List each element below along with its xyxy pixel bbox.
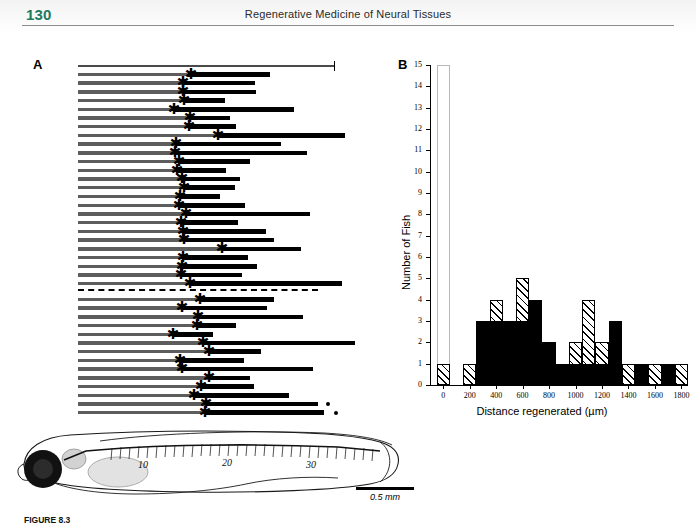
panel-a-bar-rows: ✱✱✱✱✱✱✱✱✱✱✱✱✱✱✱✱✱✱✱✱✱✱✱✱✱✱✱✱✱✱✱✱✱✱✱✱✱✱✱: [30, 55, 385, 415]
regenerated-black-segment: [183, 255, 248, 260]
proximal-grey-segment: [78, 376, 209, 379]
regenerated-black-segment: [182, 81, 255, 86]
figure-caption: FIGURE 8.3: [24, 515, 664, 523]
histogram-bar-solid: [556, 364, 569, 385]
regenerated-black-segment: [201, 384, 254, 389]
regenerated-black-segment: [182, 264, 257, 269]
proximal-grey-segment: [78, 73, 188, 76]
proximal-grey-segment: [78, 238, 184, 241]
lesion-asterisk-marker: ✱: [199, 405, 212, 420]
histogram-bar-hatched: [648, 364, 661, 385]
histogram-plot-area: 0123456789101112131415020040060080010001…: [392, 55, 692, 420]
x-axis-tick: [443, 385, 444, 389]
regenerated-black-segment: [222, 247, 301, 252]
histogram-bar-solid: [569, 364, 582, 385]
y-axis-tick-label: 14: [406, 81, 422, 90]
histogram-bar-solid: [529, 300, 542, 385]
y-axis-label: Number of Fish: [400, 215, 412, 290]
histogram-bar-solid: [662, 364, 675, 385]
y-axis-tick: [426, 236, 430, 237]
regenerated-black-segment: [203, 341, 355, 346]
x-axis-tick: [523, 385, 524, 389]
proximal-grey-segment: [78, 315, 198, 318]
proximal-grey-segment: [78, 411, 205, 414]
histogram-bar-hatched: [463, 364, 476, 385]
x-axis-tick: [655, 385, 656, 389]
y-axis-tick-label: 3: [406, 316, 422, 325]
proximal-grey-segment: [78, 81, 182, 84]
proximal-grey-segment: [78, 151, 175, 154]
y-axis-tick: [426, 278, 430, 279]
proximal-grey-segment: [78, 221, 181, 224]
proximal-grey-segment: [78, 108, 174, 111]
regenerated-black-segment: [205, 410, 324, 415]
x-axis-label: Distance regenerated (µm): [392, 405, 692, 417]
scale-bar: 0.5 mm: [345, 487, 425, 502]
x-axis-tick-label: 1800: [666, 391, 696, 400]
scale-bar-line: [356, 487, 414, 490]
proximal-grey-segment: [78, 142, 176, 145]
y-axis-tick: [426, 108, 430, 109]
regenerated-black-segment: [175, 151, 307, 156]
y-axis-tick-label: 15: [406, 60, 422, 69]
y-axis-tick: [426, 300, 430, 301]
histogram-bar-hatched: [675, 364, 688, 385]
somite-label-20: 20: [222, 457, 232, 468]
y-axis-tick: [426, 172, 430, 173]
y-axis-tick-label: 1: [406, 359, 422, 368]
proximal-grey-segment: [78, 195, 180, 198]
histogram-bar-solid: [542, 342, 555, 385]
proximal-grey-segment: [78, 333, 173, 336]
x-axis-tick: [576, 385, 577, 389]
proximal-grey-segment: [78, 282, 191, 285]
proximal-grey-segment: [78, 385, 201, 388]
histogram-bar-solid: [516, 321, 529, 385]
y-axis-tick: [426, 214, 430, 215]
scale-bar-label: 0.5 mm: [345, 492, 425, 502]
proximal-grey-segment: [78, 230, 183, 233]
proximal-grey-segment: [78, 212, 186, 215]
y-axis-tick: [426, 65, 430, 66]
regenerated-black-segment: [176, 142, 281, 147]
somite-label-30: 30: [305, 459, 316, 470]
proximal-grey-segment: [78, 402, 206, 405]
regenerated-black-segment: [184, 185, 235, 190]
figure-number: FIGURE 8.3: [24, 515, 70, 523]
histogram-bar-solid: [476, 321, 489, 385]
y-axis-tick: [426, 364, 430, 365]
x-axis-tick: [628, 385, 629, 389]
y-axis-tick-label: 2: [406, 337, 422, 346]
y-axis-tick: [426, 86, 430, 87]
regenerated-black-segment: [181, 220, 238, 225]
panel-a-row: ✱: [78, 408, 388, 418]
proximal-grey-segment: [78, 116, 190, 119]
histogram-bar-open: [437, 65, 450, 385]
x-axis-tick: [496, 385, 497, 389]
regenerated-black-segment: [191, 281, 342, 286]
proximal-grey-segment: [78, 160, 179, 163]
reference-line: [78, 65, 334, 67]
y-axis-line: [430, 65, 431, 385]
y-axis-tick-label: 12: [406, 124, 422, 133]
running-title: Regenerative Medicine of Neural Tissues: [0, 8, 696, 20]
proximal-grey-segment: [78, 256, 183, 259]
regenerated-black-segment: [179, 159, 250, 164]
x-axis-tick: [470, 385, 471, 389]
regenerated-black-segment: [188, 72, 270, 77]
proximal-grey-segment: [78, 341, 203, 344]
somite-label-10: 10: [138, 459, 148, 470]
regenerated-black-segment: [184, 238, 274, 243]
y-axis-tick: [426, 129, 430, 130]
y-axis-tick: [426, 342, 430, 343]
proximal-grey-segment: [78, 169, 177, 172]
proximal-grey-segment: [78, 273, 181, 276]
proximal-grey-segment: [78, 186, 184, 189]
proximal-grey-segment: [78, 125, 190, 128]
regenerated-black-segment: [186, 212, 310, 217]
regenerated-black-segment: [218, 133, 345, 138]
proximal-grey-segment: [78, 265, 182, 268]
histogram-bar-solid: [609, 321, 622, 385]
regenerated-black-segment: [200, 297, 274, 302]
histogram-bar-hatched: [437, 364, 450, 385]
histogram-bar-solid: [582, 364, 595, 385]
